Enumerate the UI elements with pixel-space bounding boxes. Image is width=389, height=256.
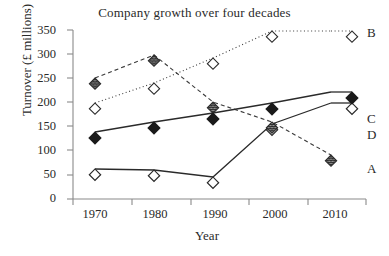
series-d-markers [89,103,357,188]
series-b-markers [89,31,357,114]
chart-container: Company growth over four decades Turnove… [0,0,389,256]
plot-area [0,0,389,256]
series-b-line [95,31,352,103]
series-d-line [95,103,352,177]
series-a-markers [89,55,336,166]
series-c-line [95,92,352,132]
x-axis-ticks [73,199,366,205]
series-c-markers [89,92,358,144]
y-axis-ticks [67,30,73,199]
